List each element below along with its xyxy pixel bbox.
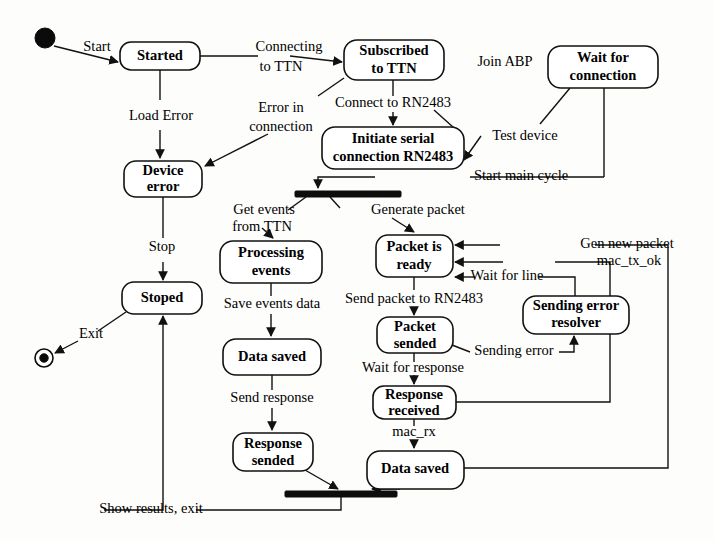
state-sending-error-resolver-label-line1: Sending error <box>533 297 620 313</box>
fork-bar <box>295 191 401 197</box>
state-wait-connection-label-line2: connection <box>570 67 637 83</box>
final-node-inner <box>40 354 48 362</box>
edge-label-error-conn-line1: Error in <box>258 99 304 115</box>
edge-gen-packet-seg1 <box>330 197 340 208</box>
state-packet-is-ready[interactable]: Packet is ready <box>376 235 453 277</box>
state-processing-events[interactable]: Processing events <box>220 241 322 283</box>
edge-error-conn-seg1 <box>318 78 344 96</box>
edge-label-mac-rx: mac_rx <box>392 423 436 439</box>
state-packet-sended[interactable]: Packet sended <box>377 317 453 353</box>
edge-label-show-results-exit: Show results, exit <box>99 500 203 516</box>
edge-label-wait-for-line: Wait for line <box>471 267 544 283</box>
state-response-sended-label-line1: Response <box>244 435 303 451</box>
state-packet-ready-label-line1: Packet is <box>386 238 442 254</box>
initial-node <box>35 28 55 48</box>
edge-main-cycle-seg3 <box>318 177 375 188</box>
edge-sending-error-seg1 <box>452 345 470 352</box>
edge-label-start-main-cycle: Start main cycle <box>474 167 568 183</box>
edge-show-results-seg2 <box>104 316 163 510</box>
state-stoped-label: Stoped <box>141 289 184 305</box>
state-response-received-label-line2: received <box>388 402 439 418</box>
state-packet-sended-label-line1: Packet <box>394 318 436 334</box>
edge-label-stop: Stop <box>149 238 176 254</box>
edge-label-send-packet-rn2483: Send packet to RN2483 <box>345 290 483 306</box>
state-subscribed-label-line2: to TTN <box>371 60 417 76</box>
state-wait-for-connection[interactable]: Wait for connection <box>548 46 658 88</box>
edge-show-results-seg1 <box>196 497 341 510</box>
state-data-saved-left[interactable]: Data saved <box>223 339 321 375</box>
state-processing-events-label-line2: events <box>252 262 291 278</box>
diagram-canvas: Started Subscribed to TTN Wait for conne… <box>0 0 714 539</box>
state-wait-connection-label-line1: Wait for <box>577 49 630 65</box>
state-data-saved-right[interactable]: Data saved <box>367 451 464 489</box>
edge-label-wait-for-response: Wait for response <box>362 359 464 375</box>
state-started[interactable]: Started <box>120 42 200 70</box>
uml-state-diagram: Started Subscribed to TTN Wait for conne… <box>0 0 714 539</box>
edge-test-device-seg2 <box>464 136 481 160</box>
state-initiate-serial-label-line1: Initiate serial <box>352 130 435 146</box>
state-subscribed-label-line1: Subscribed <box>359 42 428 58</box>
edge-label-get-events-line2: from TTN <box>232 218 292 234</box>
state-data-saved-left-label: Data saved <box>238 348 306 364</box>
edge-label-get-events-line1: Get events <box>233 201 295 217</box>
edge-label-send-response: Send response <box>230 389 313 405</box>
state-device-error[interactable]: Device error <box>124 161 202 197</box>
state-response-received-label-line1: Response <box>385 386 444 402</box>
edge-label-gen-new-packet: Gen new packet <box>580 235 673 251</box>
state-sending-error-resolver-label-line2: resolver <box>551 314 601 330</box>
state-device-error-label-line2: error <box>147 178 180 194</box>
edge-gen-packet-seg2 <box>392 218 414 232</box>
state-response-received[interactable]: Response received <box>373 386 456 419</box>
state-initiate-serial-connection[interactable]: Initiate serial connection RN2483 <box>322 127 464 169</box>
join-bar <box>285 491 397 497</box>
edge-error-conn-seg2 <box>205 134 268 166</box>
edge-exit-seg2 <box>55 341 78 353</box>
state-started-label: Started <box>137 47 183 63</box>
edge-label-connecting-line2: to TTN <box>260 58 303 74</box>
state-initiate-serial-label-line2: connection RN2483 <box>333 148 453 164</box>
state-response-sended[interactable]: Response sended <box>233 433 313 471</box>
edge-label-save-events-data: Save events data <box>224 295 321 311</box>
edge-label-generate-packet: Generate packet <box>371 201 465 217</box>
state-stoped[interactable]: Stoped <box>122 282 202 314</box>
edge-sending-error-seg2 <box>559 336 574 352</box>
edge-label-connecting-line1: Connecting <box>256 38 323 54</box>
state-device-error-label-line1: Device <box>142 162 184 178</box>
state-packet-sended-label-line2: sended <box>394 335 437 351</box>
state-subscribed-to-ttn[interactable]: Subscribed to TTN <box>344 40 444 80</box>
edge-wait-line-seg1 <box>539 277 575 296</box>
edge-label-test-device: Test device <box>492 127 557 143</box>
edge-label-sending-error: Sending error <box>474 342 553 358</box>
edge-label-error-conn-line2: connection <box>249 118 313 134</box>
edge-response-sended-to-join <box>305 470 338 489</box>
edge-label-mac-tx-ok: mac_tx_ok <box>597 252 662 268</box>
edge-label-join-abp: Join ABP <box>477 53 532 69</box>
state-sending-error-resolver[interactable]: Sending error resolver <box>523 296 629 334</box>
edge-label-start: Start <box>83 38 110 54</box>
state-response-sended-label-line2: sended <box>252 452 295 468</box>
state-packet-ready-label-line2: ready <box>396 256 432 272</box>
edge-test-device-seg1 <box>540 88 570 124</box>
edge-label-exit: Exit <box>79 325 103 341</box>
state-processing-events-label-line1: Processing <box>238 244 305 260</box>
edge-label-load-error: Load Error <box>129 107 193 123</box>
edge-label-connect-rn2483: Connect to RN2483 <box>335 94 451 110</box>
state-data-saved-right-label: Data saved <box>381 460 449 476</box>
